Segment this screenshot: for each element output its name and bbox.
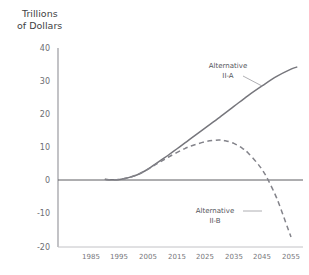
y-tick-label-neg20: -20	[37, 243, 50, 252]
y-tick-label-neg10: -10	[37, 209, 50, 218]
x-tick-label-2015: 2015	[168, 253, 186, 261]
x-tick-label-1995: 1995	[110, 253, 128, 261]
chart-background	[0, 0, 309, 275]
y-tick-label-40: 40	[40, 44, 50, 53]
y-tick-label-10: 10	[40, 143, 50, 152]
annotation-ii-b-line1: Alternative	[196, 207, 234, 215]
x-tick-label-2025: 2025	[196, 253, 214, 261]
y-tick-label-0: 0	[45, 176, 50, 185]
y-axis-title-line1: Trillions	[21, 8, 58, 19]
annotation-ii-a-line1: Alternative	[209, 62, 247, 70]
line-chart: Trillions of Dollars 40 30 20 10 0 -10 -…	[0, 0, 309, 275]
x-tick-label-2005: 2005	[139, 253, 157, 261]
x-tick-label-2045: 2045	[253, 253, 271, 261]
y-axis-title-line2: of Dollars	[17, 20, 62, 31]
y-tick-label-20: 20	[40, 110, 50, 119]
x-tick-label-2055: 2055	[282, 253, 300, 261]
x-tick-label-2035: 2035	[225, 253, 243, 261]
annotation-ii-b-line2: II-B	[209, 217, 220, 225]
y-tick-label-30: 30	[40, 77, 50, 86]
annotation-ii-a-line2: II-A	[222, 72, 234, 80]
chart-container: Trillions of Dollars 40 30 20 10 0 -10 -…	[0, 0, 309, 275]
x-tick-label-1985: 1985	[82, 253, 100, 261]
